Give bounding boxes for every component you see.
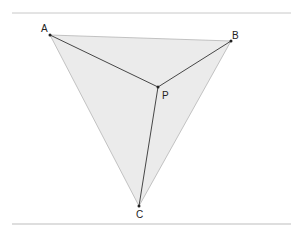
label-p: P [162,90,169,101]
point-c [138,205,141,208]
label-c: C [136,209,143,220]
triangle-abc [50,35,231,206]
label-a: A [41,23,48,34]
point-a [49,34,52,37]
point-p [157,86,160,89]
diagram-canvas: A B C P [0,0,303,234]
label-b: B [232,30,239,41]
